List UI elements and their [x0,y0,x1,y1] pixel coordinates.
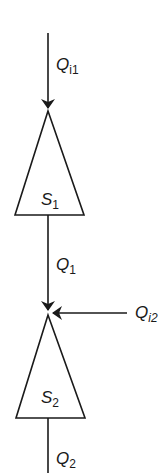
label-q1: Q1 [56,255,76,277]
label-s2: S2 [41,388,59,410]
label-s1: S1 [41,190,59,212]
label-qi2: Qi2 [135,303,158,325]
flow-diagram: Qi1 S1 Q1 Qi2 S2 Q2 [0,0,168,473]
label-qi1: Qi1 [56,55,79,77]
label-q2: Q2 [56,449,76,471]
